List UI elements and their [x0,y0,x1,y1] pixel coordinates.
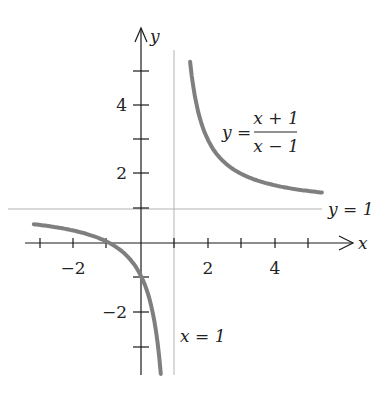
horizontal-asymptote-label: y = 1 [327,199,373,219]
equation-numerator: x + 1 [253,108,298,128]
vertical-asymptote-label: x = 1 [180,326,225,346]
function-graph: x y −2 2 4 4 2 −2 y = x + 1 x − 1 x = 1 … [0,0,390,396]
tick-label-y-4: 4 [116,95,127,115]
equation-lhs: y = [221,122,251,142]
tick-label-x-2: 2 [203,258,214,278]
tick-label-x-4: 4 [270,258,281,278]
y-axis-label: y [149,26,160,46]
tick-label-y-2: 2 [116,163,127,183]
tick-label-x-neg2: −2 [60,258,85,278]
equation-annotation: y = x + 1 x − 1 [221,108,299,156]
x-axis [25,236,353,250]
tick-label-y-neg2: −2 [102,302,127,322]
equation-denominator: x − 1 [253,136,298,156]
y-axis [133,28,149,375]
curve-left-branch [34,224,161,374]
x-axis-label: x [358,233,368,253]
